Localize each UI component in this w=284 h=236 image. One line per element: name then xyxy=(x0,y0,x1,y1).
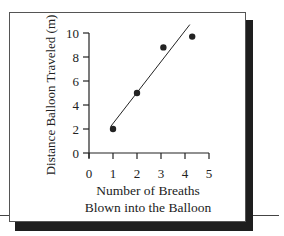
x-tick-label: 2 xyxy=(134,166,141,181)
scatter-chart: 0246810012345Number of BreathsBlown into… xyxy=(0,0,284,236)
data-point xyxy=(189,33,195,39)
x-tick-label: 1 xyxy=(110,166,117,181)
y-tick-label: 8 xyxy=(73,50,80,65)
x-axis-label-line1: Number of Breaths xyxy=(96,183,199,198)
y-tick-label: 6 xyxy=(73,74,80,89)
x-tick-label: 0 xyxy=(86,166,93,181)
data-point xyxy=(160,44,166,50)
x-tick-label: 5 xyxy=(206,166,213,181)
y-tick-label: 10 xyxy=(66,26,79,41)
y-tick-label: 4 xyxy=(73,98,80,113)
y-axis-label: Distance Balloon Traveled (m) xyxy=(43,15,58,176)
data-point xyxy=(134,90,140,96)
x-axis-label-line2: Blown into the Balloon xyxy=(85,200,212,215)
x-tick-label: 3 xyxy=(158,166,165,181)
x-tick-label: 4 xyxy=(182,166,189,181)
data-point xyxy=(110,126,116,132)
y-tick-label: 0 xyxy=(73,146,80,161)
trend-line xyxy=(111,25,190,127)
y-tick-label: 2 xyxy=(73,122,80,137)
